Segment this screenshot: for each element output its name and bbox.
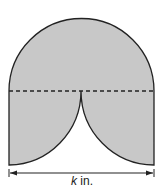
- width-label: k in.: [0, 174, 164, 188]
- figure: [0, 0, 164, 195]
- width-unit: in.: [77, 174, 93, 188]
